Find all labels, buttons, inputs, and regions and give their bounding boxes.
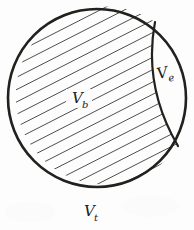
label-ve-subscript: e <box>167 72 175 84</box>
hatch-line <box>0 30 194 224</box>
volume-diagram-figure: V b V e V t <box>0 0 194 230</box>
label-ve: V e <box>155 62 175 86</box>
hatch-line <box>0 1 194 195</box>
label-vt-subscript: t <box>94 212 99 223</box>
hatch-line <box>0 0 194 107</box>
diagram-canvas: V b V e V t <box>0 0 194 230</box>
label-vt: V t <box>84 202 99 223</box>
hatch-line <box>0 0 194 175</box>
label-vb-subscript: b <box>82 99 88 110</box>
label-vb: V b <box>66 89 92 110</box>
hatching-pattern <box>0 0 194 230</box>
